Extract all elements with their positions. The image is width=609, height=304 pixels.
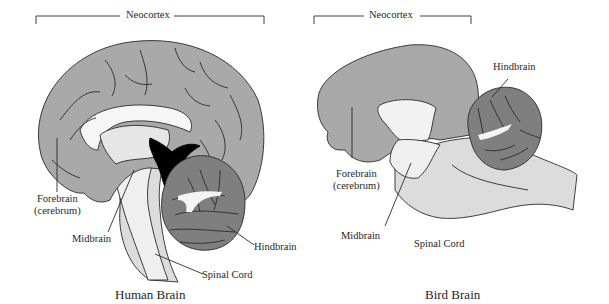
bird-spinal-cord-label: Spinal Cord: [414, 238, 464, 250]
human-neocortex-label: Neocortex: [124, 9, 172, 20]
bird-brain-title: Bird Brain: [425, 287, 480, 303]
bird-forebrain-label: Forebrain (cerebrum): [333, 168, 380, 192]
bird-hindbrain-label: Hindbrain: [493, 61, 536, 73]
human-brain: [36, 16, 264, 282]
bird-midbrain-label: Midbrain: [341, 230, 380, 242]
human-forebrain-text: Forebrain: [34, 193, 81, 205]
human-brain-title: Human Brain: [115, 287, 185, 303]
human-midbrain-label: Midbrain: [72, 233, 111, 245]
human-hindbrain-label: Hindbrain: [254, 241, 297, 253]
human-hindbrain: [162, 156, 245, 251]
brain-diagram: [0, 0, 609, 304]
human-spinal-cord-label: Spinal Cord: [202, 269, 252, 281]
bird-forebrain-subtext: (cerebrum): [333, 180, 380, 192]
human-forebrain-label: Forebrain (cerebrum): [34, 193, 81, 217]
bird-neocortex-label: Neocortex: [367, 9, 415, 20]
bird-forebrain-text: Forebrain: [333, 168, 380, 180]
human-forebrain-subtext: (cerebrum): [34, 205, 81, 217]
bird-brain: [314, 16, 577, 226]
